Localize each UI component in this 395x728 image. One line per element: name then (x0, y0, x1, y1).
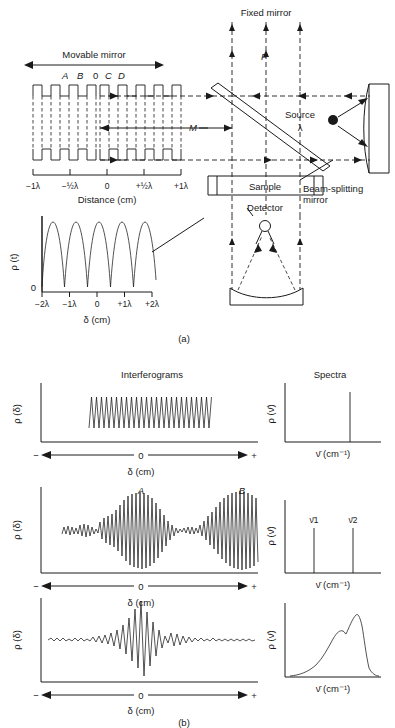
spectrum-1-xlabel: ν̄ (cm⁻¹) (316, 448, 351, 459)
interferogram-3-xlabel: δ (cm) (128, 705, 155, 716)
interferogram-3-xzero: 0 (138, 690, 143, 701)
distance-tick-1: −½λ (62, 181, 79, 191)
interferogram-row-1 (41, 383, 258, 459)
spectra-heading: Spectra (314, 369, 347, 380)
interferogram-2-xzero: 0 (138, 581, 143, 592)
spectrum-3-ylabel: ρ (ν̄) (265, 630, 276, 649)
fringe-mark-B: B (77, 70, 84, 81)
movable-mirror-arrow (24, 61, 164, 69)
interferogram-1-xplus: + (251, 450, 257, 461)
interferogram-2-xplus: + (251, 581, 257, 592)
detector-rays (238, 236, 295, 290)
interferogram-2-marker-A: A (137, 485, 144, 496)
detector-signal-curve (42, 222, 156, 287)
spectrum-row-3 (285, 603, 381, 677)
detector-signal-yzero: 0 (31, 282, 36, 293)
delta-tick-1: −1λ (63, 299, 78, 309)
sample-label: Sample (249, 181, 281, 192)
spectrum-2-label-nu1: ν̄1 (310, 515, 319, 525)
interferogram-1-xlabel: δ (cm) (128, 466, 155, 477)
interferogram-1-ylabel: ρ (δ) (11, 404, 22, 424)
spectrum-2-label-nu2: ν̄2 (349, 515, 358, 525)
interferogram-1-xzero: 0 (138, 450, 143, 461)
delta-tick-4: +2λ (145, 299, 160, 309)
wavefront-verticals-right (100, 96, 181, 149)
fringe-mark-A: A (61, 70, 68, 81)
fringe-mark-0: 0 (93, 70, 98, 81)
interferogram-2-xminus: − (33, 581, 39, 592)
panel-a: Fixed mirror F Movable mirror A B (8, 7, 389, 344)
spectrum-1-ylabel: ρ (ν̄) (265, 404, 276, 423)
distance-tick-4: +1λ (174, 181, 189, 191)
spectrum-3-xlabel: ν̄ (cm⁻¹) (316, 683, 351, 694)
wavefront-pattern-left (33, 85, 96, 160)
interferogram-1-xminus: − (33, 450, 39, 461)
distance-tick-0: −1λ (26, 181, 41, 191)
detector-label: Detector (247, 202, 283, 213)
beam-splitter-label-2: mirror (303, 194, 328, 205)
interferogram-3-xplus: + (251, 690, 257, 701)
collimating-mirror (364, 84, 389, 173)
source-dot (328, 115, 338, 125)
detector-ray-arrowheads (229, 238, 303, 253)
interferogram-3-curve (48, 601, 255, 676)
figure-interferometer: Fixed mirror F Movable mirror A B (0, 0, 395, 728)
wavefront-verticals-left (33, 96, 96, 149)
movable-mirror-label: Movable mirror (62, 49, 125, 60)
interferogram-2-curve (62, 491, 258, 570)
source-label: Source (285, 109, 315, 120)
interferogram-3-ylabel: ρ (δ) (11, 630, 22, 650)
fringe-mark-C: C (105, 70, 112, 81)
movable-mirror-symbol: M (189, 122, 197, 133)
interferogram-1-curve (89, 397, 212, 428)
detector-signal-ylabel: ρ (t) (8, 253, 19, 270)
spectrum-row-2 (285, 500, 381, 573)
interferogram-2-ylabel: ρ (δ) (11, 520, 22, 540)
panel-b: Interferograms Spectra ρ (δ) − + 0 δ (cm… (11, 369, 381, 728)
fixed-mirror-label: Fixed mirror (241, 7, 292, 18)
spectrum-row-1 (285, 383, 381, 442)
panel-a-label: (a) (178, 333, 190, 344)
beamsplitter-leader (300, 160, 333, 180)
distance-axis-label: Distance (cm) (78, 194, 137, 205)
detector-signal-xlabel: δ (cm) (84, 314, 111, 325)
delta-tick-3: +1λ (118, 299, 133, 309)
detector-signal-plot (42, 216, 156, 297)
interferogram-3-xminus: − (33, 690, 39, 701)
interferogram-row-2 (41, 487, 258, 590)
spectrum-3-curve (290, 614, 379, 676)
beam-splitter-label-1: Beam-splitting (303, 183, 363, 194)
detector-focusing-mirror (230, 288, 303, 305)
spectrum-2-ylabel: ρ (ν̄) (265, 526, 276, 545)
interferogram-row-3 (41, 598, 258, 699)
distance-tick-3: +½λ (136, 181, 153, 191)
spectrum-2-xlabel: ν̄ (cm⁻¹) (316, 579, 351, 590)
delta-tick-2: 0 (95, 299, 100, 309)
signal-leader (152, 218, 204, 252)
delta-tick-0: −2λ (35, 299, 50, 309)
panel-b-label: (b) (178, 717, 190, 728)
distance-tick-2: 0 (105, 181, 110, 191)
fringe-mark-D: D (118, 70, 125, 81)
source-wavelength-symbol: λ (298, 122, 303, 133)
distance-axis (33, 169, 181, 175)
interferograms-heading: Interferograms (121, 369, 183, 380)
